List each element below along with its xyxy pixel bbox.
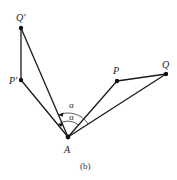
segment-a-q: [68, 74, 166, 137]
label-a: A: [63, 144, 71, 155]
segment-p-prime-a: [21, 80, 68, 137]
point-q: [164, 72, 168, 76]
figure-caption: (b): [80, 161, 91, 171]
angle-label-outer: α: [69, 100, 74, 110]
label-p-prime: P': [8, 75, 18, 86]
point-q-prime: [19, 26, 23, 30]
segment-p-q: [117, 74, 166, 81]
label-p: P: [112, 65, 119, 76]
segment-q-prime-a: [21, 28, 68, 137]
point-a: [66, 135, 71, 140]
angle-label-inner: α: [69, 112, 74, 122]
segment-a-p: [68, 81, 117, 137]
label-q-prime: Q': [16, 12, 26, 23]
label-q: Q: [162, 59, 170, 70]
point-p-prime: [19, 78, 23, 82]
point-p: [115, 79, 119, 83]
rotation-diagram: α α Q' P' A P Q (b): [0, 0, 177, 180]
